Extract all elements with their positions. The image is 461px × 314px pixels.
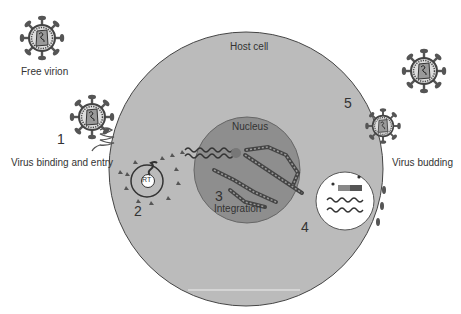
label-virus-binding: Virus binding and entry: [11, 157, 113, 168]
label-host-cell: Host cell: [230, 41, 268, 52]
label-free-virion: Free virion: [21, 66, 68, 77]
released-virion-icon: [402, 49, 446, 93]
step-4: 4: [301, 219, 309, 235]
step-3: 3: [215, 188, 223, 204]
label-virus-budding: Virus budding: [392, 157, 453, 168]
free-virion-icon: [20, 16, 64, 60]
step-5: 5: [344, 95, 352, 111]
hiv-lifecycle-diagram: Free virion Host cell Nucleus Integratio…: [0, 0, 461, 314]
label-integration: Integration: [214, 203, 261, 214]
label-rt: RT: [142, 176, 151, 183]
budding-virion-icon: [365, 108, 401, 144]
step-1: 1: [57, 131, 65, 147]
label-nucleus: Nucleus: [232, 121, 268, 132]
step-2: 2: [134, 203, 142, 219]
